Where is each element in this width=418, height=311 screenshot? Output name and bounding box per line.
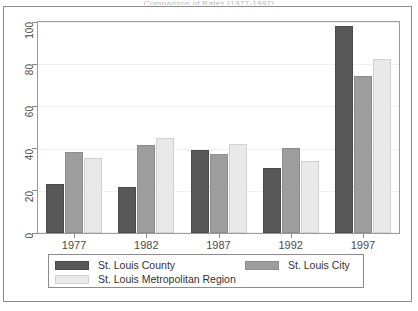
x-axis-label: 1977 (44, 239, 104, 251)
bar (210, 154, 228, 233)
bar (156, 138, 174, 233)
gridline (38, 22, 399, 23)
clipped-caption: Comparison of Rates (1977-1997) (0, 0, 418, 5)
legend-swatch-icon (55, 275, 89, 284)
legend-entry-1[interactable]: St. Louis City (245, 260, 350, 271)
x-axis-label: 1992 (261, 239, 321, 251)
bar (84, 158, 102, 233)
legend-entry-0[interactable]: St. Louis County (55, 260, 245, 271)
legend-row: St. Louis Metropolitan Region (55, 273, 357, 286)
y-axis-label: 80 (25, 64, 35, 90)
y-axis-label: 40 (25, 149, 35, 175)
x-axis-label: 1987 (189, 239, 249, 251)
y-axis-label: 100 (25, 22, 35, 48)
x-axis-tick (363, 234, 364, 238)
legend-entry-2[interactable]: St. Louis Metropolitan Region (55, 274, 245, 285)
x-axis-label: 1982 (116, 239, 176, 251)
y-axis-label: 60 (25, 106, 35, 132)
bar (373, 59, 391, 233)
plot-area (37, 21, 400, 234)
x-axis-tick (74, 234, 75, 238)
bar (191, 150, 209, 233)
bar (137, 145, 155, 233)
bar (46, 184, 64, 233)
legend-label: St. Louis County (98, 260, 175, 271)
bar (118, 187, 136, 233)
bar (354, 76, 372, 233)
y-axis-label: 20 (25, 191, 35, 217)
x-axis-tick (146, 234, 147, 238)
x-axis-tick (219, 234, 220, 238)
legend-label: St. Louis City (288, 260, 350, 271)
legend-swatch-icon (55, 261, 89, 270)
legend-label: St. Louis Metropolitan Region (98, 274, 236, 285)
bar (301, 161, 319, 233)
bar (229, 144, 247, 233)
legend-swatch-icon (245, 261, 279, 270)
x-axis-tick (291, 234, 292, 238)
legend-row: St. Louis County St. Louis City (55, 259, 357, 272)
chart-legend: St. Louis County St. Louis City St. Loui… (48, 254, 364, 288)
bar (335, 26, 353, 233)
bar (65, 152, 83, 233)
bar (263, 168, 281, 233)
y-axis-label: 0 (25, 233, 35, 259)
bar (282, 148, 300, 233)
x-axis-label: 1997 (333, 239, 393, 251)
